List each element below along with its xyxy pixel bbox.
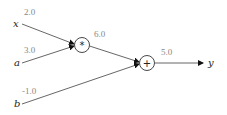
- add-output-value: 5.0: [161, 47, 173, 57]
- input-value-b: -1.0: [22, 86, 37, 96]
- multiply-output-value: 6.0: [94, 29, 106, 39]
- multiply-icon: *: [80, 40, 85, 51]
- plus-icon: +: [143, 58, 151, 69]
- edge-b-to-add: [22, 64, 139, 104]
- output-label-y: y: [207, 57, 214, 68]
- input-label-x: x: [13, 18, 19, 29]
- edge-x-to-mul: [22, 24, 74, 44]
- input-label-b: b: [14, 98, 20, 109]
- input-value-x: 2.0: [24, 7, 36, 17]
- computational-graph: x 2.0 a 3.0 * 6.0 b -1.0 + 5.0 y: [0, 0, 227, 115]
- edge-mul-to-add: [90, 46, 140, 62]
- input-label-a: a: [14, 57, 20, 68]
- input-value-a: 3.0: [24, 45, 36, 55]
